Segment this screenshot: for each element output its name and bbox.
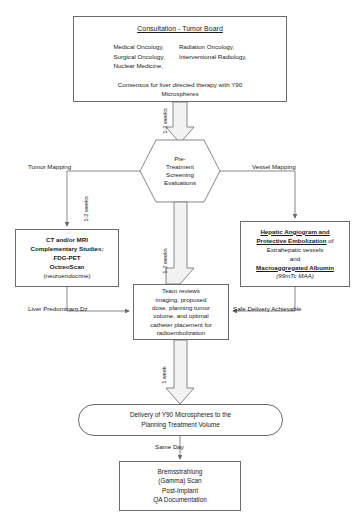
- node-bremsstrahlung-scan: Bremsstrahlung (Gamma) Scan Post-Implant…: [119, 461, 241, 511]
- edge-label-tumor-mapping: Tumor Mapping: [28, 163, 71, 170]
- flowchart-canvas: Consultation - Tumor Board Medical Oncol…: [0, 0, 361, 521]
- team-line: imaging, proposed: [156, 296, 207, 304]
- edge-label-screening-to-team: 1-2 weeks: [162, 248, 168, 274]
- specialty-item: Surgical Oncology,: [113, 53, 164, 61]
- specialty-item: Interventional Radiology,: [179, 53, 247, 61]
- angio-line: Extrahepatic vessels: [267, 246, 324, 254]
- angio-line: (99mTc MAA): [276, 272, 314, 280]
- edge-label-vessel-mapping: Vessel Mapping: [252, 163, 296, 170]
- edge-label-team-to-delivery: 1 week: [161, 366, 167, 384]
- node-consultation-tumor-board: Consultation - Tumor Board Medical Oncol…: [73, 16, 287, 102]
- consultation-right-column: Radiation Oncology, Interventional Radio…: [179, 43, 247, 72]
- arrow-screening-to-team: [166, 202, 194, 284]
- brems-line: Bremsstrahlung: [158, 468, 203, 476]
- branch-vessel-mapping: [220, 171, 295, 218]
- team-line: radioembolization: [157, 329, 206, 337]
- node-delivery: Delivery of Y90 Microspheres to the Plan…: [78, 404, 283, 436]
- edge-label-imaging-branch-duration: 1-2 weeks: [83, 196, 89, 222]
- delivery-line: Planning Treatment Volume: [141, 421, 220, 429]
- angio-line-tail: of: [327, 237, 334, 244]
- imaging-line: OctreoScan: [50, 263, 85, 271]
- node-hepatic-angiogram: Hepatic Angiogram and Protective Emboliz…: [240, 221, 350, 287]
- angio-line: and: [290, 255, 300, 263]
- angio-line: Hepatic Angiogram and: [260, 228, 329, 236]
- consultation-consensus: Consensus for liver directed therapy wit…: [118, 81, 242, 99]
- screening-line: Treatment: [164, 163, 196, 171]
- consensus-line: Microspheres: [118, 90, 242, 98]
- specialty-item: Nuclear Medicine,: [113, 62, 164, 70]
- imaging-line: Complementary Studies:: [31, 245, 104, 253]
- screening-text: Pre- Treatment Screening Evaluations: [164, 155, 196, 187]
- node-imaging-studies: CT and/or MRI Complementary Studies: FDG…: [15, 229, 119, 287]
- team-line: Team reviews: [162, 287, 200, 295]
- node-pre-treatment-screening: Pre- Treatment Screening Evaluations: [140, 140, 220, 202]
- consultation-specialties: Medical Oncology, Surgical Oncology, Nuc…: [74, 43, 286, 72]
- brems-line: Post-Implant: [162, 487, 198, 495]
- imaging-line: FDG-PET: [53, 254, 80, 262]
- arrow-team-to-delivery: [166, 340, 194, 404]
- consultation-heading: Consultation - Tumor Board: [137, 25, 223, 34]
- arrow-consult-to-screening: [166, 102, 194, 143]
- edge-label-same-day: Same Day: [155, 443, 184, 450]
- branch-tumor-mapping: [67, 171, 140, 226]
- screening-line: Evaluations: [164, 179, 196, 187]
- imaging-line: (neuroendocrine): [43, 272, 90, 280]
- delivery-line: Delivery of Y90 Microspheres to the: [130, 411, 231, 419]
- specialty-item: Medical Oncology,: [113, 43, 164, 51]
- edge-label-consult-to-screening: 1-2 weeks: [162, 108, 168, 134]
- screening-line: Screening: [164, 171, 196, 179]
- brems-line: (Gamma) Scan: [158, 477, 201, 485]
- team-line: catheter placement for: [150, 321, 212, 329]
- angio-line: Macroaggregated Albumin: [256, 264, 334, 272]
- angio-line: Protective Embolization of: [256, 237, 333, 245]
- angio-line-emphasis: Protective Embolization: [256, 237, 326, 244]
- team-line: volume, and optimal: [153, 312, 208, 320]
- brems-line: QA Documentation: [153, 496, 207, 504]
- team-line: dose, planning tumor: [152, 304, 210, 312]
- edge-label-safe-delivery-achievable: Safe Delivery Achievable: [233, 305, 301, 312]
- specialty-item: Radiation Oncology,: [179, 43, 247, 51]
- consultation-left-column: Medical Oncology, Surgical Oncology, Nuc…: [113, 43, 164, 72]
- screening-line: Pre-: [164, 155, 196, 163]
- node-team-review: Team reviews imaging, proposed dose, pla…: [133, 284, 229, 340]
- consensus-line: Consensus for liver directed therapy wit…: [118, 81, 242, 89]
- edge-label-liver-predominant-dz: Liver Predominant Dz: [28, 305, 88, 312]
- imaging-line: CT and/or MRI: [46, 236, 88, 244]
